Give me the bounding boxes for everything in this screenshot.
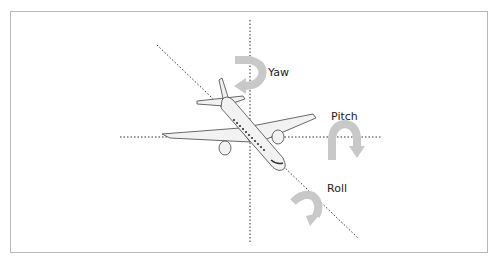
pitch-arrow-icon bbox=[332, 124, 365, 160]
roll-label: Roll bbox=[327, 182, 347, 195]
yaw-arrow-icon bbox=[234, 60, 263, 94]
roll-arrow-icon bbox=[293, 195, 322, 226]
axes-diagram bbox=[0, 0, 499, 262]
yaw-label: Yaw bbox=[268, 66, 289, 79]
aircraft-icon bbox=[162, 78, 316, 170]
pitch-label: Pitch bbox=[331, 110, 358, 123]
